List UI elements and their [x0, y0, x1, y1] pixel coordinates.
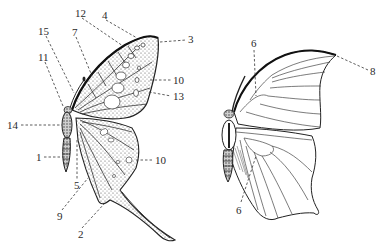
label-11: 11 [38, 52, 49, 63]
label-12: 12 [75, 8, 86, 19]
right-butterfly [222, 50, 336, 219]
label-15: 15 [38, 26, 49, 37]
label-4: 4 [102, 10, 108, 21]
label-3: 3 [188, 34, 194, 45]
label-13: 13 [173, 91, 184, 102]
left-thorax [62, 112, 72, 138]
label-2: 2 [78, 229, 84, 240]
label-1: 1 [36, 152, 42, 163]
label-9: 9 [57, 211, 63, 222]
right-hindwing [232, 128, 319, 220]
label-7: 7 [72, 27, 78, 38]
label-10-hindwing: 10 [155, 155, 166, 166]
label-6-hindwing: 6 [236, 205, 242, 216]
right-forewing [234, 50, 336, 130]
label-6-forewing: 6 [251, 38, 257, 49]
left-butterfly [62, 36, 175, 241]
label-10-forewing: 10 [173, 75, 184, 86]
label-5: 5 [74, 180, 80, 191]
right-head [224, 110, 234, 118]
left-abdomen [63, 138, 71, 172]
label-14: 14 [7, 120, 18, 131]
left-hindwing [76, 118, 175, 241]
butterfly-anatomy-diagram: 12 4 3 15 7 11 10 13 14 1 10 5 9 2 6 8 6 [0, 0, 382, 247]
label-8: 8 [370, 66, 376, 77]
